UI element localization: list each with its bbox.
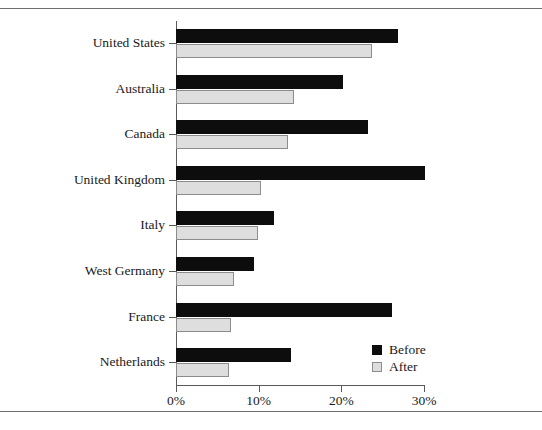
category-group: West Germany: [176, 257, 424, 287]
plot-area: United StatesAustraliaCanadaUnited Kingd…: [176, 22, 424, 385]
category-group: Italy: [176, 211, 424, 241]
x-tick-label: 20%: [329, 393, 354, 409]
category-label: Australia: [116, 78, 166, 100]
x-axis-ticks: 0%10%20%30%: [176, 386, 425, 412]
category-group: Australia: [176, 75, 424, 105]
category-label: France: [128, 306, 165, 328]
x-tick-mark: [341, 386, 342, 392]
category-tick: [169, 225, 176, 226]
bar-before: [176, 120, 368, 134]
bar-after: [176, 318, 231, 332]
bar-after: [176, 90, 294, 104]
bar-before: [176, 75, 343, 89]
category-tick: [169, 362, 176, 363]
bar-before: [176, 348, 291, 362]
bar-after: [176, 44, 372, 58]
bar-after: [176, 272, 234, 286]
bar-after: [176, 226, 258, 240]
category-tick: [169, 134, 176, 135]
category-tick: [169, 89, 176, 90]
category-label: Italy: [140, 214, 165, 236]
legend-label: After: [389, 358, 417, 375]
category-tick: [169, 317, 176, 318]
category-group: United States: [176, 29, 424, 59]
bar-after: [176, 363, 229, 377]
legend-item: After: [372, 358, 426, 375]
bar-before: [176, 211, 274, 225]
category-group: United Kingdom: [176, 166, 424, 196]
category-label: West Germany: [85, 260, 165, 282]
category-tick: [169, 43, 176, 44]
chart-legend: BeforeAfter: [372, 341, 426, 375]
legend-swatch-after: [372, 362, 382, 372]
bar-before: [176, 29, 398, 43]
category-label: Netherlands: [100, 351, 165, 373]
x-tick-mark: [176, 386, 177, 392]
bar-before: [176, 303, 392, 317]
legend-label: Before: [389, 341, 426, 358]
category-group: Canada: [176, 120, 424, 150]
bar-after: [176, 135, 288, 149]
x-tick-mark: [424, 386, 425, 392]
bar-before: [176, 166, 425, 180]
x-tick-label: 10%: [246, 393, 271, 409]
x-tick-mark: [259, 386, 260, 392]
figure: United StatesAustraliaCanadaUnited Kingd…: [0, 0, 542, 430]
category-label: United States: [93, 32, 165, 54]
category-label: United Kingdom: [74, 169, 165, 191]
bar-after: [176, 181, 261, 195]
top-rule: [0, 8, 542, 9]
legend-item: Before: [372, 341, 426, 358]
legend-swatch-before: [372, 345, 382, 355]
bar-before: [176, 257, 254, 271]
category-label: Canada: [125, 123, 165, 145]
category-tick: [169, 271, 176, 272]
category-group: France: [176, 303, 424, 333]
x-tick-label: 0%: [167, 393, 185, 409]
x-tick-label: 30%: [412, 393, 437, 409]
category-tick: [169, 180, 176, 181]
